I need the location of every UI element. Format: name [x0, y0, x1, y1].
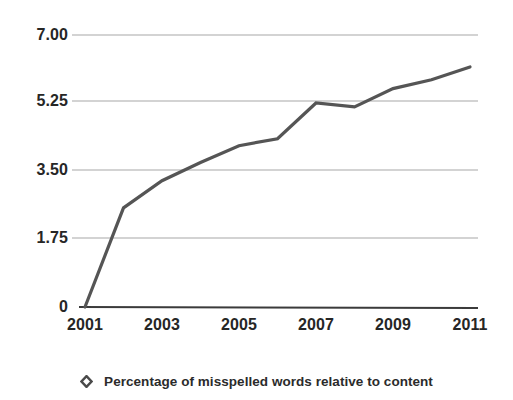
y-tick-label-175: 1.75 [6, 229, 68, 247]
y-tick-label-350: 3.50 [6, 161, 68, 179]
data-series-misspelled-words [85, 67, 470, 307]
x-axis-line [79, 307, 478, 308]
x-tick-label-2011: 2011 [432, 316, 508, 334]
gridlines [72, 35, 478, 238]
line-chart-plot [0, 0, 513, 400]
x-tick-label-2001: 2001 [47, 316, 123, 334]
x-tick-label-2009: 2009 [355, 316, 431, 334]
chart-container: 7.00 5.25 3.50 1.75 0 2001 2003 2005 200… [0, 0, 513, 400]
legend-item[interactable]: Percentage of misspelled words relative … [80, 374, 433, 389]
series-line [85, 67, 470, 307]
legend-item-label: Percentage of misspelled words relative … [104, 374, 433, 389]
axis-baseline [79, 307, 478, 308]
chart-legend: Percentage of misspelled words relative … [0, 366, 513, 396]
y-tick-label-0: 0 [6, 298, 68, 316]
y-tick-label-7: 7.00 [6, 26, 68, 44]
x-tick-label-2003: 2003 [124, 316, 200, 334]
diamond-open-icon [80, 375, 93, 388]
x-tick-label-2007: 2007 [278, 316, 354, 334]
x-tick-label-2005: 2005 [201, 316, 277, 334]
y-tick-label-525: 5.25 [6, 92, 68, 110]
